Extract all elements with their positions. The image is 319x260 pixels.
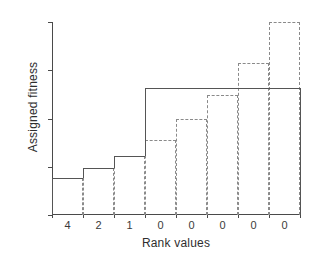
x-tick-label: 0 [146, 219, 176, 231]
y-tick-mark [48, 70, 52, 71]
chart-figure: 00.511.52 42100000 Rank values Assigned … [0, 0, 319, 260]
y-tick-mark [48, 22, 52, 23]
x-tick-label: 1 [115, 219, 145, 231]
y-axis-title: Assigned fitness [26, 27, 40, 187]
dashed-bar [176, 119, 207, 215]
dashed-bar [145, 140, 176, 215]
x-axis-title: Rank values [52, 236, 300, 250]
step-segment [52, 178, 83, 179]
step-segment [269, 88, 300, 89]
x-tick-label: 0 [239, 219, 269, 231]
dashed-bar [238, 63, 269, 215]
y-tick-mark [48, 119, 52, 120]
dashed-bar [269, 22, 300, 215]
x-tick-label: 2 [84, 219, 114, 231]
step-riser [300, 88, 301, 215]
step-segment [83, 168, 114, 169]
step-segment [207, 88, 238, 89]
x-tick-label: 0 [177, 219, 207, 231]
step-segment [176, 88, 207, 89]
step-riser [83, 168, 84, 179]
dashed-bar [207, 95, 238, 215]
x-tick-label: 4 [53, 219, 83, 231]
dashed-bar [114, 156, 145, 215]
step-riser [145, 88, 146, 157]
x-tick-label: 0 [208, 219, 238, 231]
dashed-bar [83, 168, 114, 215]
step-segment [114, 156, 145, 157]
dashed-bar [52, 178, 83, 215]
y-tick-mark [48, 167, 52, 168]
step-segment [145, 88, 176, 89]
x-tick-label: 0 [270, 219, 300, 231]
step-segment [238, 88, 269, 89]
step-riser [114, 156, 115, 168]
step-riser [52, 178, 53, 215]
plot-area: 00.511.52 42100000 [52, 22, 300, 215]
